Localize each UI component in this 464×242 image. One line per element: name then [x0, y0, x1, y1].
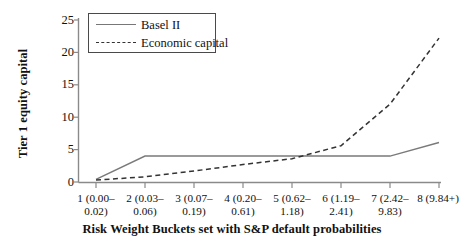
series-line-economic-capital — [96, 38, 439, 180]
legend-label-basel-ii: Basel II — [141, 16, 180, 34]
legend-entry-economic-capital: Economic capital — [94, 34, 214, 52]
chart-figure: Tier 1 equity capital Risk Weight Bucket… — [0, 0, 464, 242]
legend-label-economic-capital: Economic capital — [141, 34, 228, 52]
legend-entry-basel-ii: Basel II — [94, 16, 214, 34]
plot-area — [0, 0, 464, 242]
chart-legend: Basel II Economic capital — [88, 13, 216, 53]
solid-line-swatch-icon — [96, 24, 136, 27]
x-axis-ticks — [96, 183, 439, 189]
dashed-line-swatch-icon — [96, 42, 136, 45]
